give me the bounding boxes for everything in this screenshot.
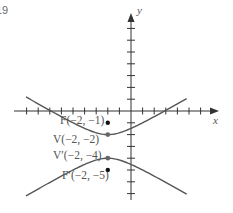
y-axis-label: y (136, 4, 142, 16)
point-V (105, 132, 110, 137)
point-V-prime (105, 156, 110, 161)
upper-branch (26, 97, 187, 135)
x-axis-label: x (212, 114, 218, 126)
label-F-prime: F′(−2, −5) (62, 169, 109, 182)
hyperbola-chart: F(−2, −1)V(−2, −2)V′(−2, −4)F′(−2, −5) x… (0, 0, 233, 213)
axes (14, 13, 219, 200)
label-V: V(−2, −2) (53, 133, 99, 146)
y-axis-arrow-icon (128, 13, 135, 22)
label-F: F(−2, −1) (60, 114, 104, 127)
labeled-points: F(−2, −1)V(−2, −2)V′(−2, −4)F′(−2, −5) (53, 114, 110, 182)
point-F (106, 121, 110, 125)
label-V-prime: V′(−2, −4) (53, 149, 102, 162)
